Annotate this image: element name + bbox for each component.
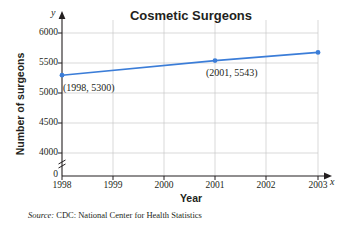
data-point-2001 — [213, 58, 218, 63]
y-tick-label-5000: 5000 — [26, 87, 58, 97]
y-axis-variable-letter: y — [51, 7, 55, 18]
y-tick-label-4500: 4500 — [26, 117, 58, 127]
y-tick-label-4000: 4000 — [26, 147, 58, 157]
y-tick-label-5500: 5500 — [26, 57, 58, 67]
y-tick-label-0: 0 — [26, 169, 58, 179]
data-series-line — [62, 52, 318, 75]
source-label: Source: — [28, 210, 54, 220]
y-tick-label-6000: 6000 — [26, 27, 58, 37]
x-tick-label-1999: 1999 — [93, 180, 133, 190]
chart-figure: Cosmetic Surgeons y x Number of surgeons… — [0, 0, 345, 229]
horizontal-gridlines — [62, 33, 318, 153]
source-text: CDC: National Center for Health Statisti… — [56, 210, 202, 220]
x-tick-label-1998: 1998 — [42, 180, 82, 190]
x-tick-label-2002: 2002 — [246, 180, 286, 190]
x-tick-label-2000: 2000 — [144, 180, 184, 190]
vertical-gridlines — [113, 20, 318, 176]
data-point-2003 — [316, 50, 321, 55]
data-point-markers — [60, 50, 321, 78]
source-note: Source: CDC: National Center for Health … — [28, 210, 202, 220]
x-axis-title: Year — [62, 192, 320, 204]
annotation-2001: (2001, 5543) — [206, 67, 258, 78]
chart-title: Cosmetic Surgeons — [62, 8, 320, 23]
x-tick-label-2001: 2001 — [195, 180, 235, 190]
y-tick-marks — [58, 33, 62, 153]
y-axis-title: Number of surgeons — [14, 44, 26, 164]
data-point-1998 — [60, 73, 65, 78]
annotation-1998: (1998, 5300) — [63, 82, 115, 93]
x-tick-label-2003: 2003 — [298, 180, 338, 190]
